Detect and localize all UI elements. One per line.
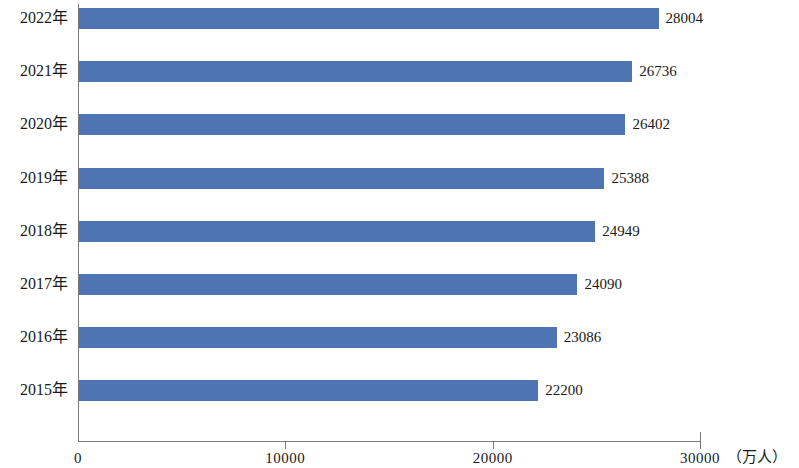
bar-row: 2018年24949 [0,221,799,242]
bar-row: 2022年28004 [0,8,799,29]
x-axis-tick [700,442,701,449]
category-label: 2019年 [0,167,78,189]
x-axis-tick-label: 30000 [676,450,724,466]
bar-row: 2016年23086 [0,327,799,348]
category-label: 2016年 [0,326,78,348]
bar-row: 2019年25388 [0,168,799,189]
bar-row: 2015年22200 [0,380,799,401]
bar [79,327,557,348]
x-axis-tick [493,442,494,449]
bar-row: 2020年26402 [0,114,799,135]
bar [79,8,659,29]
bar-value-label: 22200 [545,380,583,401]
x-axis-tick-label: 20000 [469,450,517,466]
category-label: 2022年 [0,7,78,29]
bar [79,221,595,242]
bar-value-label: 25388 [611,168,649,189]
bar-row: 2017年24090 [0,274,799,295]
category-label: 2020年 [0,113,78,135]
x-axis-tick [285,442,286,449]
bar-chart: 2022年280042021年267362020年264022019年25388… [0,0,799,468]
x-axis-end-cap [700,432,701,442]
bar [79,380,538,401]
bar-value-label: 28004 [666,8,704,29]
x-axis-tick-label: 10000 [261,450,309,466]
x-axis-line [78,441,701,442]
category-label: 2017年 [0,273,78,295]
bar-value-label: 26402 [632,114,670,135]
plot-area: 2022年280042021年267362020年264022019年25388… [0,0,799,468]
category-label: 2018年 [0,220,78,242]
category-label: 2015年 [0,379,78,401]
bar [79,168,604,189]
bar-value-label: 23086 [564,327,602,348]
bar-value-label: 26736 [639,61,677,82]
bar [79,114,625,135]
bar-row: 2021年26736 [0,61,799,82]
x-axis-unit-label: （万人） [727,449,787,465]
bar [79,274,577,295]
bar-value-label: 24949 [602,221,640,242]
bar-value-label: 24090 [584,274,622,295]
bar [79,61,632,82]
x-axis-tick-label: 0 [54,450,102,466]
category-label: 2021年 [0,60,78,82]
